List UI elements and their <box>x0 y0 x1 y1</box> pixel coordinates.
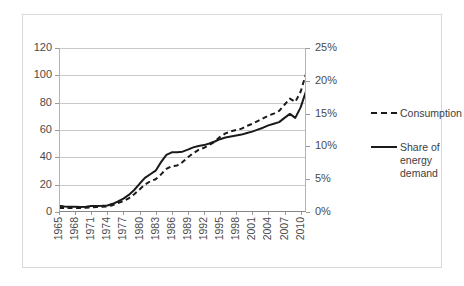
x-axis-label: 1968 <box>69 217 80 240</box>
y-axis-right-tick <box>306 81 310 82</box>
x-axis-tick <box>236 212 237 215</box>
legend-solid-line-icon <box>371 141 397 152</box>
x-axis-tick <box>268 212 269 215</box>
x-axis-tick <box>75 212 76 215</box>
y-axis-left-label: 60 <box>40 124 52 135</box>
y-axis-left-label: 120 <box>34 42 52 53</box>
x-axis-tick <box>204 212 205 215</box>
x-axis-tick <box>107 212 108 215</box>
y-axis-right-label: 5% <box>315 173 331 184</box>
y-axis-right-label: 10% <box>315 140 337 151</box>
line-consumption <box>59 74 306 208</box>
y-axis-right-tick <box>306 48 310 49</box>
y-axis-left-label: 80 <box>40 97 52 108</box>
x-axis-label: 1980 <box>134 217 145 240</box>
legend-label-share-of-energy-demand: Share of energy demand <box>400 141 457 180</box>
y-axis-left-label: 20 <box>40 179 52 190</box>
chart-figure: 0204060801001200%5%10%15%20%25%196519681… <box>22 14 442 268</box>
x-axis-label: 1995 <box>214 217 225 240</box>
x-axis-tick <box>285 212 286 215</box>
plot-area: 0204060801001200%5%10%15%20%25%196519681… <box>59 48 306 212</box>
y-axis-left-label: 0 <box>46 206 52 217</box>
series-lines <box>59 48 306 212</box>
x-axis-label: 1971 <box>85 217 96 240</box>
x-axis-tick <box>220 212 221 215</box>
legend-label-consumption: Consumption <box>400 107 462 120</box>
y-axis-right-tick <box>306 212 310 213</box>
y-axis-right-tick <box>306 146 310 147</box>
x-axis-label: 1989 <box>182 217 193 240</box>
x-axis-label: 1965 <box>53 217 64 240</box>
line-share-of-energy-demand <box>59 91 306 207</box>
legend-item-share-of-energy-demand: Share of energy demand <box>371 141 457 180</box>
x-axis-label: 1986 <box>166 217 177 240</box>
x-axis-tick <box>252 212 253 215</box>
x-axis-tick <box>123 212 124 215</box>
x-axis-label: 1998 <box>230 217 241 240</box>
x-axis-tick <box>59 212 60 215</box>
x-axis-label: 1983 <box>150 217 161 240</box>
x-axis-tick <box>91 212 92 215</box>
x-axis-tick <box>140 212 141 215</box>
y-axis-right-label: 0% <box>315 206 331 217</box>
y-axis-right-label: 20% <box>315 75 337 86</box>
x-axis-tick <box>172 212 173 215</box>
x-axis-tick <box>301 212 302 215</box>
x-axis-tick <box>188 212 189 215</box>
y-axis-right-label: 15% <box>315 108 337 119</box>
y-axis-left-label: 100 <box>34 69 52 80</box>
x-axis-label: 2004 <box>262 217 273 240</box>
chart-legend: Consumption Share of energy demand <box>371 107 457 202</box>
legend-dashed-line-icon <box>371 107 397 118</box>
y-axis-right-label: 25% <box>315 42 337 53</box>
y-axis-left-label: 40 <box>40 151 52 162</box>
x-axis-label: 1977 <box>117 217 128 240</box>
x-axis-label: 2001 <box>246 217 257 240</box>
legend-item-consumption: Consumption <box>371 107 457 120</box>
x-axis-tick <box>156 212 157 215</box>
x-axis-label: 1992 <box>198 217 209 240</box>
x-axis-label: 1974 <box>101 217 112 240</box>
x-axis-label: 2007 <box>279 217 290 240</box>
x-axis-label: 2010 <box>295 217 306 240</box>
y-axis-right-tick <box>306 114 310 115</box>
y-axis-right-tick <box>306 179 310 180</box>
